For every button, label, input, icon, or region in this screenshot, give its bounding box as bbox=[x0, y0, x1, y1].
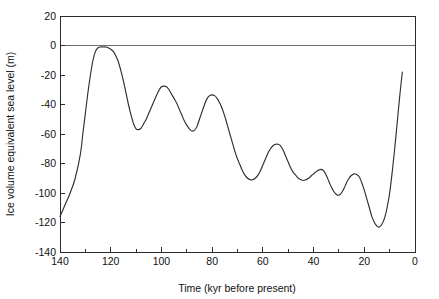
y-axis-title: Ice volume equivalent sea level (m) bbox=[4, 52, 16, 217]
y-tick-label--80: -80 bbox=[41, 157, 56, 169]
x-tick-label-0: 0 bbox=[412, 255, 418, 267]
x-axis-title: Time (kyr before present) bbox=[178, 282, 295, 294]
y-tick-label-0: 0 bbox=[50, 39, 56, 51]
x-tick-label-100: 100 bbox=[153, 255, 171, 267]
x-tick-label-40: 40 bbox=[308, 255, 320, 267]
x-tick-label-80: 80 bbox=[206, 255, 218, 267]
chart-figure: 200-20-40-60-80-100-120-140 140120100806… bbox=[0, 0, 439, 299]
x-tick-label-120: 120 bbox=[102, 255, 120, 267]
y-tick-label--120: -120 bbox=[35, 216, 56, 228]
y-tick-label-20: 20 bbox=[44, 10, 56, 22]
x-tick-label-60: 60 bbox=[257, 255, 269, 267]
y-tick-label--60: -60 bbox=[41, 128, 56, 140]
sea-level-line-chart: 200-20-40-60-80-100-120-140 140120100806… bbox=[0, 0, 439, 299]
x-tick-label-140: 140 bbox=[51, 255, 69, 267]
y-tick-label--20: -20 bbox=[41, 69, 56, 81]
y-tick-label--40: -40 bbox=[41, 98, 56, 110]
y-tick-label--100: -100 bbox=[35, 187, 56, 199]
x-tick-label-20: 20 bbox=[358, 255, 370, 267]
